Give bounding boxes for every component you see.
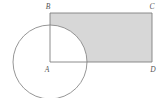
vertex-label-d: D [149, 65, 156, 74]
vertex-label-b: B [46, 2, 51, 11]
geometry-figure: B C A D [0, 0, 166, 98]
geometry-canvas: B C A D [0, 0, 166, 98]
shaded-region [50, 13, 152, 62]
vertex-label-a: A [44, 65, 50, 74]
vertex-label-c: C [149, 2, 155, 11]
